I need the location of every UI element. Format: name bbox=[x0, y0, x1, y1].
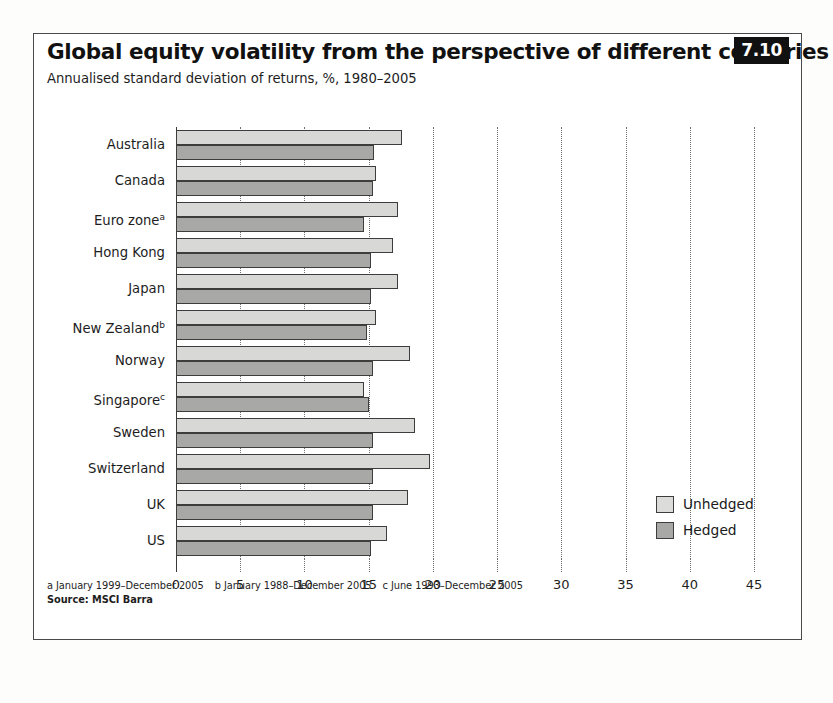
category-footnote-marker: b bbox=[159, 320, 165, 330]
x-tick-label-45: 45 bbox=[746, 577, 763, 592]
category-label-sweden: Sweden bbox=[113, 426, 165, 440]
chart-row: Switzerland bbox=[176, 451, 754, 487]
chart-row: Euro zonea bbox=[176, 199, 754, 235]
figure-card: Global equity volatility from the perspe… bbox=[33, 33, 802, 640]
legend-item-unhedged: Unhedged bbox=[656, 491, 754, 517]
bar-hedged-singapore bbox=[176, 397, 369, 412]
x-tick-40 bbox=[690, 559, 691, 572]
bar-unhedged-switzerland bbox=[176, 454, 430, 469]
legend-swatch-unhedged bbox=[656, 496, 674, 513]
x-tick-25 bbox=[497, 559, 498, 572]
legend-label-unhedged: Unhedged bbox=[683, 496, 754, 512]
bar-unhedged-canada bbox=[176, 166, 376, 181]
category-label-canada: Canada bbox=[115, 174, 165, 188]
bar-unhedged-singapore bbox=[176, 382, 364, 397]
bar-unhedged-uk bbox=[176, 490, 408, 505]
bar-hedged-sweden bbox=[176, 433, 373, 448]
bar-hedged-australia bbox=[176, 145, 374, 160]
figure-number-badge: 7.10 bbox=[734, 37, 789, 64]
bar-unhedged-hong-kong bbox=[176, 238, 393, 253]
category-label-norway: Norway bbox=[115, 354, 165, 368]
chart-row: Canada bbox=[176, 163, 754, 199]
bar-hedged-norway bbox=[176, 361, 373, 376]
category-label-hong-kong: Hong Kong bbox=[93, 246, 165, 260]
chart-row: Singaporec bbox=[176, 379, 754, 415]
bar-hedged-switzerland bbox=[176, 469, 373, 484]
category-footnote-marker: a bbox=[159, 212, 165, 222]
bar-hedged-new-zealand bbox=[176, 325, 367, 340]
category-label-us: US bbox=[147, 534, 165, 548]
bar-hedged-uk bbox=[176, 505, 373, 520]
category-label-australia: Australia bbox=[107, 138, 165, 152]
category-footnote-marker: c bbox=[160, 392, 165, 402]
chart-row: Sweden bbox=[176, 415, 754, 451]
chart-row: New Zealandb bbox=[176, 307, 754, 343]
chart-row: Australia bbox=[176, 127, 754, 163]
bar-hedged-euro-zone bbox=[176, 217, 364, 232]
bar-unhedged-japan bbox=[176, 274, 398, 289]
gridline-45 bbox=[754, 127, 755, 559]
figure-footnotes: a January 1999–December 2005b January 19… bbox=[47, 579, 747, 606]
x-tick-30 bbox=[561, 559, 562, 572]
bar-unhedged-sweden bbox=[176, 418, 415, 433]
bar-hedged-hong-kong bbox=[176, 253, 371, 268]
figure-page: Global equity volatility from the perspe… bbox=[0, 0, 833, 703]
chart-plot-area: 051015202530354045AustraliaCanadaEuro zo… bbox=[176, 127, 754, 559]
legend-item-hedged: Hedged bbox=[656, 517, 754, 543]
chart-legend: Unhedged Hedged bbox=[656, 491, 754, 543]
bar-unhedged-us bbox=[176, 526, 387, 541]
bar-hedged-japan bbox=[176, 289, 371, 304]
chart-row: Hong Kong bbox=[176, 235, 754, 271]
x-tick-20 bbox=[433, 559, 434, 572]
bar-hedged-us bbox=[176, 541, 371, 556]
bar-unhedged-new-zealand bbox=[176, 310, 376, 325]
page-title: Global equity volatility from the perspe… bbox=[47, 38, 789, 66]
bar-unhedged-australia bbox=[176, 130, 402, 145]
footnote-c: c June 1993–December 2005 bbox=[383, 580, 523, 591]
bar-hedged-canada bbox=[176, 181, 373, 196]
x-tick-45 bbox=[754, 559, 755, 572]
footnote-a: a January 1999–December 2005 bbox=[47, 580, 204, 591]
x-tick-5 bbox=[240, 559, 241, 572]
category-label-new-zealand: New Zealandb bbox=[73, 318, 165, 336]
bar-unhedged-norway bbox=[176, 346, 410, 361]
category-label-uk: UK bbox=[147, 498, 165, 512]
x-tick-10 bbox=[304, 559, 305, 572]
category-label-euro-zone: Euro zonea bbox=[94, 210, 165, 228]
footnote-b: b January 1988–December 2005 bbox=[215, 580, 372, 591]
x-tick-35 bbox=[626, 559, 627, 572]
chart-row: Norway bbox=[176, 343, 754, 379]
category-label-singapore: Singaporec bbox=[94, 390, 165, 408]
legend-label-hedged: Hedged bbox=[683, 522, 737, 538]
bar-unhedged-euro-zone bbox=[176, 202, 398, 217]
category-label-switzerland: Switzerland bbox=[88, 462, 165, 476]
figure-header: Global equity volatility from the perspe… bbox=[47, 38, 789, 88]
source-line: Source: MSCI Barra bbox=[47, 593, 747, 607]
x-tick-0 bbox=[176, 559, 177, 572]
chart-subtitle: Annualised standard deviation of returns… bbox=[47, 69, 789, 88]
category-label-japan: Japan bbox=[128, 282, 165, 296]
x-tick-15 bbox=[369, 559, 370, 572]
legend-swatch-hedged bbox=[656, 522, 674, 539]
chart-row: Japan bbox=[176, 271, 754, 307]
